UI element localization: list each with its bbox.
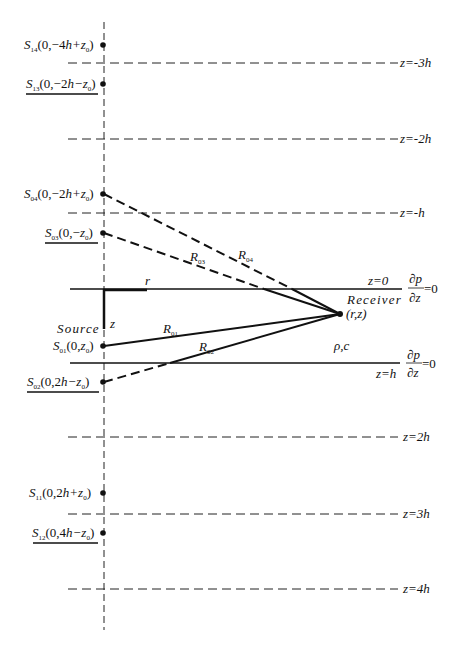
ray-r01: R01 [104, 314, 340, 346]
svg-text:S04(0,−2h+z0): S04(0,−2h+z0) [24, 186, 94, 203]
coordinate-axes: r z [103, 273, 151, 331]
r-axis-label: r [145, 273, 151, 288]
image-plane-z-minus-3h: z=-3h [68, 55, 431, 70]
boundary-label: z=0 [367, 273, 389, 288]
image-plane-z-minus-2h: z=-2h [68, 131, 431, 146]
bc-rhs: =0 [424, 281, 438, 296]
image-plane-z-4h: z=4h [68, 581, 430, 596]
source-s03: S03(0,−z0) [45, 225, 106, 243]
bc-numerator: ∂p [409, 271, 422, 286]
bc-denominator: ∂z [407, 365, 418, 380]
source-s02: S02(0,2h−z0) [27, 374, 106, 392]
image-plane-z-3h: z=3h [68, 506, 430, 521]
plane-label: z=3h [402, 506, 430, 521]
svg-text:R04: R04 [237, 247, 253, 264]
svg-text:S13(0,−2h−z0): S13(0,−2h−z0) [26, 76, 96, 93]
plane-label: z=4h [402, 581, 430, 596]
source-s12: S12(0,4h−z0) [32, 525, 106, 543]
plane-label: z=-2h [399, 131, 431, 146]
plane-label: z=2h [402, 429, 430, 444]
image-source-diagram: z=-3h z=-2h z=-h z=2h z=3h z=4h z=0 ∂p ∂… [0, 0, 459, 647]
source-label: Source [57, 321, 100, 336]
plane-label: z=-3h [399, 55, 431, 70]
source-s04: S04(0,−2h+z0) [24, 186, 106, 203]
bc-rhs: =0 [422, 356, 436, 371]
receiver-coords: (r,z) [346, 306, 367, 321]
receiver: Receiver (r,z) [337, 292, 402, 321]
svg-text:S12(0,4h−z0): S12(0,4h−z0) [32, 525, 94, 542]
z-axis-label: z [109, 316, 115, 331]
source-s13: S13(0,−2h−z0) [26, 76, 106, 94]
source-s14: S14(0,−4h+z0) [24, 37, 106, 54]
svg-text:S03(0,−z0): S03(0,−z0) [45, 225, 93, 242]
svg-text:R01: R01 [162, 321, 178, 338]
svg-text:S11(0,2h+z0): S11(0,2h+z0) [29, 485, 91, 502]
bc-denominator: ∂z [409, 290, 420, 305]
svg-text:S01(0,z0): S01(0,z0) [53, 338, 94, 355]
image-plane-z-2h: z=2h [68, 429, 430, 444]
ray-r04: R04 [104, 194, 340, 314]
receiver-dot [337, 311, 343, 317]
svg-text:R03: R03 [189, 249, 205, 266]
svg-text:R02: R02 [198, 339, 214, 356]
image-plane-z-minus-h: z=-h [68, 205, 425, 220]
source-s11: S11(0,2h+z0) [29, 485, 106, 502]
svg-text:S14(0,−4h+z0): S14(0,−4h+z0) [24, 37, 94, 54]
svg-text:S02(0,2h−z0): S02(0,2h−z0) [27, 374, 89, 391]
bc-numerator: ∂p [407, 347, 420, 362]
receiver-label: Receiver [346, 292, 402, 307]
ray-r03: R03 [104, 233, 340, 314]
medium-label: ρ,c [333, 338, 349, 353]
boundary-label: z=h [375, 366, 396, 381]
plane-label: z=-h [399, 205, 425, 220]
source-s01: S01(0,z0) [53, 338, 106, 355]
ray-r02: R02 [104, 314, 340, 382]
